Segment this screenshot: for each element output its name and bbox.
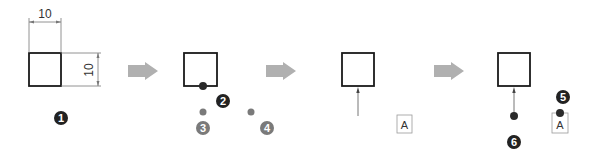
width-dimension <box>29 18 61 53</box>
diagram-canvas: 10 10 1 2 3 4 <box>0 0 600 156</box>
label-box-text: A <box>556 119 564 131</box>
step-arrow-icon <box>434 62 464 80</box>
square-shape <box>498 53 530 86</box>
badge-label: 6 <box>511 136 517 148</box>
leader-arrow <box>356 87 359 116</box>
step-1: 10 10 1 <box>29 7 101 125</box>
step-badge-6: 6 <box>507 135 521 149</box>
step-3: A <box>342 53 412 133</box>
height-dimension-label: 10 <box>82 63 96 77</box>
step-badge-1: 1 <box>54 111 68 125</box>
badge-label: 3 <box>200 122 206 134</box>
badge-label: 2 <box>220 95 226 107</box>
option-dot-3 <box>200 109 207 116</box>
anchor-dot <box>199 82 207 90</box>
step-badge-2: 2 <box>216 94 230 108</box>
step-2: 2 3 4 <box>184 53 274 135</box>
step-arrow-icon <box>128 62 158 80</box>
step-badge-3: 3 <box>196 121 210 135</box>
label-box-text: A <box>401 119 409 131</box>
step-4: 6 A 5 <box>498 53 570 149</box>
step-arrow-icon <box>266 62 296 80</box>
square-shape <box>29 53 61 86</box>
label-box-a: A <box>397 115 412 133</box>
label-box-dot <box>556 109 564 117</box>
width-dimension-label: 10 <box>38 7 52 21</box>
leader-arrow <box>512 87 515 116</box>
square-shape <box>184 53 217 86</box>
badge-label: 4 <box>264 122 271 134</box>
leader-dot <box>510 112 518 120</box>
option-dot-4 <box>248 109 255 116</box>
step-badge-4: 4 <box>260 121 274 135</box>
square-shape <box>342 53 374 86</box>
badge-label: 1 <box>58 112 64 124</box>
badge-label: 5 <box>560 91 566 103</box>
step-badge-5: 5 <box>556 90 570 104</box>
